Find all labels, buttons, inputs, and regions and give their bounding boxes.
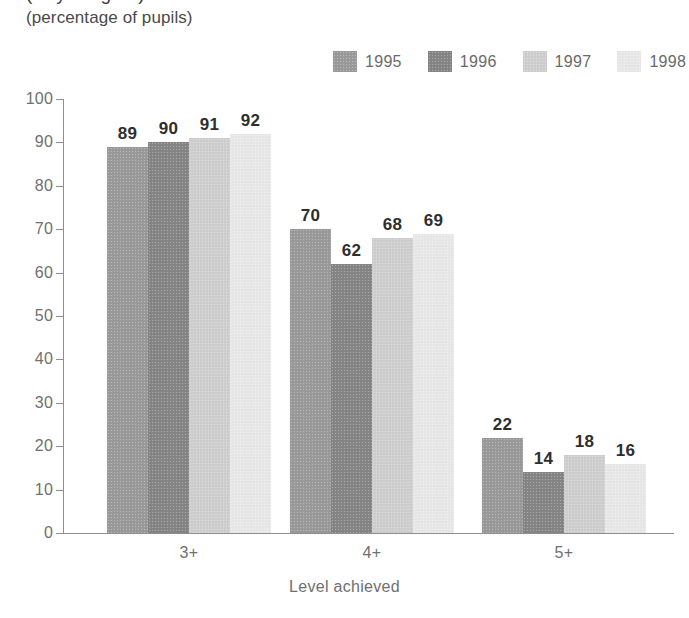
halftone-texture (617, 51, 641, 72)
bar-value-label-4+-1997: 68 (383, 216, 402, 233)
halftone-texture (564, 455, 605, 533)
bar-value-label-5+-1998: 16 (616, 442, 635, 459)
y-tick-mark-50 (56, 316, 63, 317)
bar-3+-1995[interactable] (107, 147, 148, 533)
y-tick-mark-20 (56, 446, 63, 447)
y-axis-line (63, 99, 64, 533)
y-tick-label-60: 60 (35, 265, 53, 281)
y-tick-label-0: 0 (44, 525, 53, 541)
bar-value-label-4+-1996: 62 (342, 242, 361, 259)
bar-3+-1998[interactable] (230, 134, 271, 533)
bar-4+-1998[interactable] (413, 234, 454, 533)
halftone-texture (605, 464, 646, 533)
y-tick-mark-60 (56, 273, 63, 274)
plot-area: 0102030405060708090100 89909192706268692… (63, 99, 674, 533)
y-tick-label-90: 90 (35, 134, 53, 150)
bar-4+-1995[interactable] (290, 229, 331, 533)
y-tick-label-70: 70 (35, 221, 53, 237)
legend-label-1998: 1998 (649, 54, 686, 70)
halftone-texture (428, 51, 452, 72)
bar-group-5+: 22141816 (482, 99, 646, 533)
bar-value-label-5+-1995: 22 (493, 416, 512, 433)
bar-value-label-5+-1997: 18 (575, 433, 594, 450)
halftone-texture (523, 472, 564, 533)
halftone-texture (107, 147, 148, 533)
bar-value-label-5+-1996: 14 (534, 450, 553, 467)
x-category-label-3+: 3+ (180, 545, 199, 561)
y-tick-mark-10 (56, 490, 63, 491)
bar-4+-1997[interactable] (372, 238, 413, 533)
y-tick-mark-100 (56, 99, 63, 100)
x-axis-line (63, 533, 674, 534)
y-tick-mark-30 (56, 403, 63, 404)
chart-legend: 1995199619971998 (333, 51, 686, 72)
y-tick-label-50: 50 (35, 308, 53, 324)
bar-5+-1997[interactable] (564, 455, 605, 533)
halftone-texture (333, 51, 357, 72)
legend-label-1997: 1997 (555, 54, 592, 70)
legend-item-1998[interactable]: 1998 (617, 51, 686, 72)
legend-label-1996: 1996 (460, 54, 497, 70)
y-tick-label-30: 30 (35, 395, 53, 411)
bar-5+-1998[interactable] (605, 464, 646, 533)
y-tick-mark-80 (56, 186, 63, 187)
halftone-texture (482, 438, 523, 533)
bar-5+-1995[interactable] (482, 438, 523, 533)
bar-group-3+: 89909192 (107, 99, 271, 533)
halftone-texture (290, 229, 331, 533)
bar-value-label-3+-1996: 90 (159, 120, 178, 137)
halftone-texture (413, 234, 454, 533)
bar-3+-1997[interactable] (189, 138, 230, 533)
halftone-texture (331, 264, 372, 533)
x-axis-title: Level achieved (0, 578, 689, 596)
halftone-texture (230, 134, 271, 533)
y-tick-label-40: 40 (35, 351, 53, 367)
y-tick-mark-70 (56, 229, 63, 230)
y-tick-label-100: 100 (26, 91, 53, 107)
y-tick-label-20: 20 (35, 438, 53, 454)
legend-swatch-1997 (523, 51, 547, 72)
legend-swatch-1998 (617, 51, 641, 72)
bar-value-label-4+-1998: 69 (424, 212, 443, 229)
bar-value-label-3+-1997: 91 (200, 116, 219, 133)
halftone-texture (372, 238, 413, 533)
chart-subtitle: (percentage of pupils) (26, 8, 193, 28)
halftone-texture (189, 138, 230, 533)
bar-value-label-3+-1995: 89 (118, 125, 137, 142)
halftone-texture (148, 142, 189, 533)
x-category-label-4+: 4+ (363, 545, 382, 561)
bar-group-4+: 70626869 (290, 99, 454, 533)
y-tick-mark-90 (56, 142, 63, 143)
bar-value-label-3+-1998: 92 (241, 112, 260, 129)
legend-swatch-1996 (428, 51, 452, 72)
y-tick-label-10: 10 (35, 482, 53, 498)
bar-4+-1996[interactable] (331, 264, 372, 533)
bar-5+-1996[interactable] (523, 472, 564, 533)
legend-item-1997[interactable]: 1997 (523, 51, 592, 72)
y-tick-label-80: 80 (35, 178, 53, 194)
y-tick-mark-40 (56, 359, 63, 360)
legend-label-1995: 1995 (365, 54, 402, 70)
legend-item-1995[interactable]: 1995 (333, 51, 402, 72)
bar-value-label-4+-1995: 70 (301, 207, 320, 224)
y-tick-mark-0 (56, 533, 63, 534)
legend-swatch-1995 (333, 51, 357, 72)
x-category-label-5+: 5+ (555, 545, 574, 561)
chart-title-clipped: (Key Stage 2) (26, 0, 145, 5)
halftone-texture (523, 51, 547, 72)
bar-3+-1996[interactable] (148, 142, 189, 533)
legend-item-1996[interactable]: 1996 (428, 51, 497, 72)
